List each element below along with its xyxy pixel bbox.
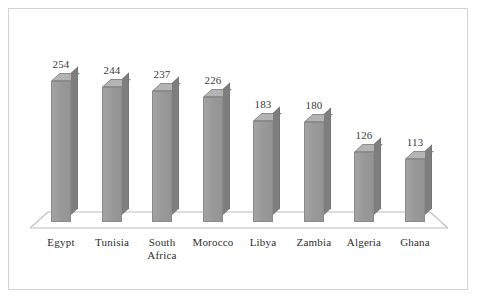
- bar-value-label: 113: [395, 136, 435, 148]
- bar-side-face: [71, 66, 78, 215]
- bar-front-face: [203, 97, 223, 222]
- bar-front-face: [51, 81, 71, 222]
- category-label: Zambia: [288, 236, 340, 249]
- bar-side-face: [223, 82, 230, 215]
- category-label: Libya: [237, 236, 289, 249]
- bar-front-face: [354, 152, 374, 222]
- bar-column: [253, 113, 282, 223]
- bar-column: [102, 79, 131, 223]
- bar-column: [51, 73, 80, 223]
- category-label: Ghana: [389, 236, 441, 249]
- bar-column: [405, 151, 434, 223]
- bar-value-label: 183: [243, 98, 283, 110]
- bar-value-label: 254: [41, 58, 81, 70]
- category-label: Egypt: [35, 236, 87, 249]
- bar-side-face: [122, 72, 129, 215]
- bar-front-face: [405, 159, 425, 222]
- bar-side-face: [273, 106, 280, 215]
- category-label: South Africa: [136, 236, 188, 262]
- bar-front-face: [253, 121, 273, 222]
- bar-side-face: [374, 137, 381, 215]
- bar-column: [152, 83, 181, 223]
- bar-front-face: [152, 91, 172, 222]
- bar-column: [304, 114, 333, 223]
- bar-value-label: 180: [294, 99, 334, 111]
- category-label: Algeria: [338, 236, 390, 249]
- bar-front-face: [102, 87, 122, 222]
- bar-column: [203, 89, 232, 223]
- bar-value-label: 126: [344, 129, 384, 141]
- chart-page: 254Egypt244Tunisia237South Africa226Moro…: [0, 0, 478, 300]
- category-label: Tunisia: [86, 236, 138, 249]
- bar-value-label: 244: [92, 64, 132, 76]
- plot-area: 254Egypt244Tunisia237South Africa226Moro…: [0, 0, 478, 300]
- bar-side-face: [324, 107, 331, 215]
- bar-column: [354, 144, 383, 223]
- bar-value-label: 237: [142, 68, 182, 80]
- category-label: Morocco: [187, 236, 239, 249]
- bar-value-label: 226: [193, 74, 233, 86]
- bar-side-face: [425, 144, 432, 215]
- bar-front-face: [304, 122, 324, 222]
- bar-side-face: [172, 76, 179, 215]
